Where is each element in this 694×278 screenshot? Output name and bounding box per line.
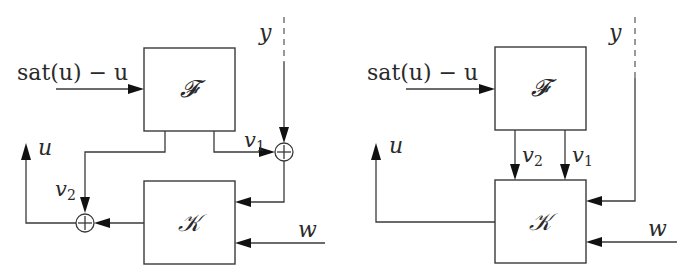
v1-label: v1 <box>572 143 593 169</box>
sum1-to-K-line <box>250 161 284 202</box>
block-F-label: 𝓕 <box>531 74 557 102</box>
u-label: u <box>389 133 403 158</box>
arrowhead-icon <box>560 164 570 180</box>
input-F-label: sat(u) − u <box>367 60 478 85</box>
arrowhead-icon <box>510 164 520 180</box>
arrowhead-icon <box>235 197 251 207</box>
arrowhead-icon <box>279 127 289 143</box>
y-label: y <box>608 20 622 45</box>
arrowhead-icon <box>586 237 602 247</box>
u-label: u <box>38 135 52 160</box>
y-label: y <box>258 20 272 45</box>
arrowhead-icon <box>371 143 381 160</box>
left-diagram: 𝓕 𝒦 sat(u) − u y v1 w v2 <box>17 17 325 264</box>
v2-label: v2 <box>522 143 543 169</box>
summing-junction-v1-y <box>275 143 293 161</box>
arrowhead-icon <box>128 84 144 94</box>
summing-junction-v2-K <box>76 214 94 232</box>
v2-label: v2 <box>55 177 76 203</box>
block-K-label: 𝒦 <box>178 209 208 237</box>
block-K-label: 𝒦 <box>529 208 559 236</box>
block-diagram-figure: 𝓕 𝒦 sat(u) − u y v1 w v2 <box>0 0 694 278</box>
input-F-label: sat(u) − u <box>17 60 128 85</box>
u-output-line <box>376 160 495 222</box>
w-label: w <box>298 217 317 242</box>
arrowhead-icon <box>479 84 495 94</box>
arrowhead-icon <box>94 218 110 228</box>
v2-line <box>85 131 165 200</box>
y-line <box>601 78 635 201</box>
arrowhead-icon <box>586 196 602 206</box>
w-label: w <box>648 216 667 241</box>
block-F-label: 𝓕 <box>180 75 206 103</box>
arrowhead-icon <box>21 143 31 160</box>
arrowhead-icon <box>235 238 251 248</box>
arrowhead-icon <box>80 197 90 213</box>
right-diagram: 𝓕 𝒦 sat(u) − u v2 v1 y w u <box>367 17 677 263</box>
v1-label: v1 <box>244 128 265 154</box>
